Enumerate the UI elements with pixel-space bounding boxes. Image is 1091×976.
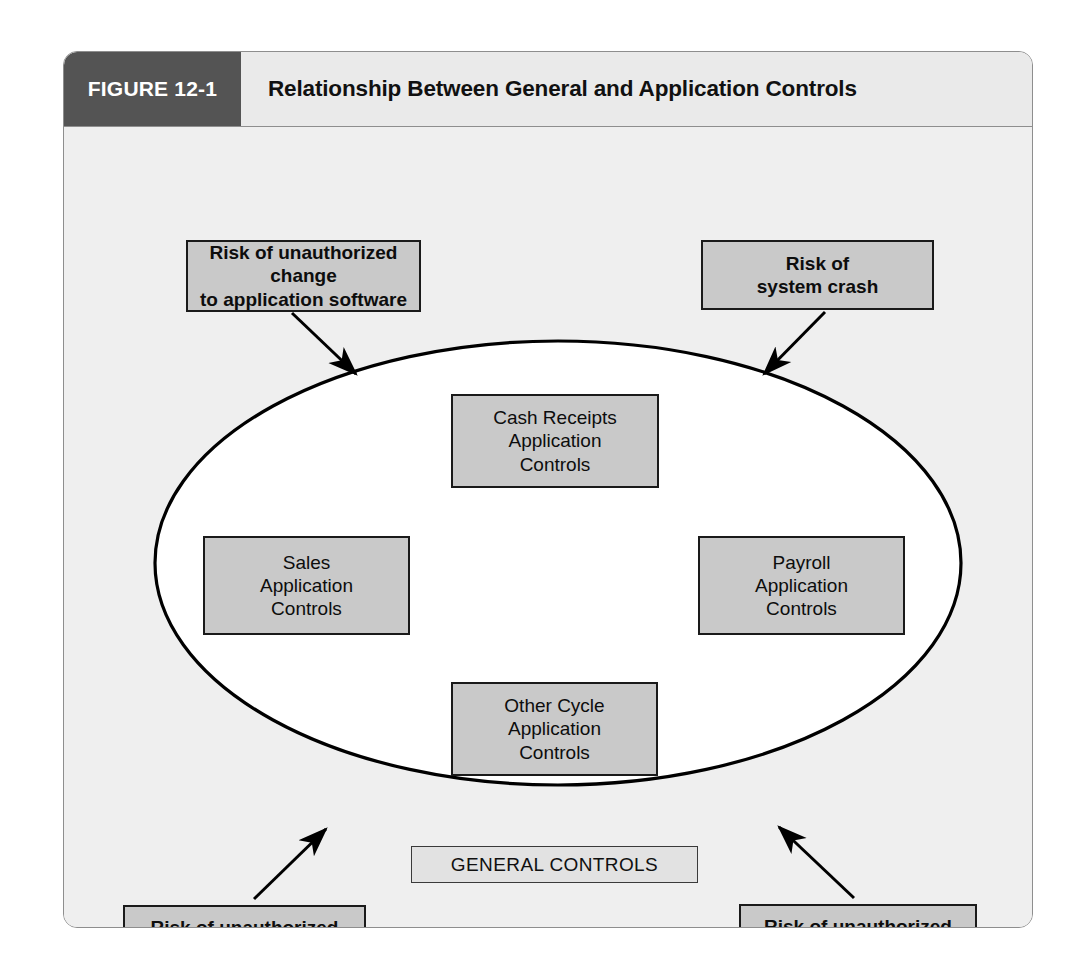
application-box-text: Other Cycle Application Controls — [504, 694, 604, 764]
application-box-line-2: Application — [755, 574, 848, 597]
application-box-text: Cash Receipts Application Controls — [493, 406, 617, 476]
risk-box-line-1: Risk of unauthorized — [151, 916, 339, 928]
application-box-other-cycle: Other Cycle Application Controls — [451, 682, 658, 776]
application-box-payroll: Payroll Application Controls — [698, 536, 905, 635]
application-box-line-2: Application — [260, 574, 353, 597]
figure-header: FIGURE 12-1 Relationship Between General… — [64, 52, 1032, 127]
arrow-risk-processing — [779, 827, 854, 898]
application-box-line-3: Controls — [755, 597, 848, 620]
risk-box-text: Risk of unauthorized master file update — [151, 916, 339, 928]
application-box-text: Sales Application Controls — [260, 551, 353, 621]
risk-box-line-1: Risk of — [757, 252, 878, 275]
application-box-line-1: Other Cycle — [504, 694, 604, 717]
general-controls-label: GENERAL CONTROLS — [451, 854, 658, 876]
application-box-line-1: Sales — [260, 551, 353, 574]
risk-box-text: Risk of unauthorized processing — [764, 915, 952, 928]
risk-box-line-1: Risk of unauthorized change — [188, 241, 419, 287]
application-box-line-3: Controls — [260, 597, 353, 620]
application-box-line-2: Application — [493, 429, 617, 452]
risk-box-text: Risk of unauthorized change to applicati… — [188, 241, 419, 311]
general-controls-label-box: GENERAL CONTROLS — [411, 846, 698, 883]
arrow-risk-change — [292, 313, 356, 374]
arrow-risk-crash — [764, 312, 825, 374]
application-box-line-2: Application — [504, 717, 604, 740]
application-box-cash-receipts: Cash Receipts Application Controls — [451, 394, 659, 488]
risk-box-unauthorized-processing: Risk of unauthorized processing — [739, 904, 977, 928]
risk-box-line-1: Risk of unauthorized — [764, 915, 952, 928]
application-box-sales: Sales Application Controls — [203, 536, 410, 635]
figure-number-label: FIGURE 12-1 — [88, 77, 217, 101]
diagram-canvas: Risk of unauthorized change to applicati… — [64, 127, 1032, 927]
application-box-line-3: Controls — [504, 741, 604, 764]
risk-box-system-crash: Risk of system crash — [701, 240, 934, 310]
risk-box-unauthorized-change: Risk of unauthorized change to applicati… — [186, 240, 421, 312]
risk-box-line-2: system crash — [757, 275, 878, 298]
risk-box-line-2: to application software — [188, 288, 419, 311]
application-box-line-1: Payroll — [755, 551, 848, 574]
application-box-line-1: Cash Receipts — [493, 406, 617, 429]
figure-number-block: FIGURE 12-1 — [64, 52, 241, 126]
application-box-text: Payroll Application Controls — [755, 551, 848, 621]
risk-box-text: Risk of system crash — [757, 252, 878, 298]
figure-title: Relationship Between General and Applica… — [268, 76, 857, 102]
risk-box-master-file-update: Risk of unauthorized master file update — [123, 905, 366, 928]
figure-frame: FIGURE 12-1 Relationship Between General… — [63, 51, 1033, 928]
application-box-line-3: Controls — [493, 453, 617, 476]
figure-title-container: Relationship Between General and Applica… — [241, 52, 1032, 126]
arrow-risk-master-file — [254, 829, 326, 899]
